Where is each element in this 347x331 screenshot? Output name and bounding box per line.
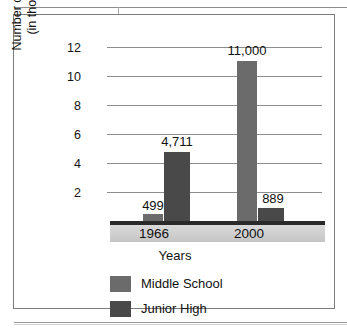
gridline-10 [113, 76, 322, 77]
y-tick-label-4: 4 [59, 158, 81, 171]
page-top-rule [14, 7, 347, 8]
legend-label-middle-school: Middle School [141, 276, 223, 291]
legend-label-junior-high: Junior High [141, 301, 207, 316]
chart-figure-frame: Number of Students (in thousands) 12 10 … [13, 14, 335, 309]
y-tick-label-8: 8 [59, 100, 81, 113]
legend-swatch-junior-high [110, 301, 131, 317]
page-bottom-rule-shadow [14, 324, 347, 325]
y-tick-label-2: 2 [59, 187, 81, 200]
y-axis-title-line2: (in thousands) [25, 0, 40, 75]
x-tick-label-1966: 1966 [124, 227, 184, 241]
legend-item-junior-high: Junior High [110, 298, 223, 319]
bar-1966-middle-school [143, 214, 163, 221]
x-axis-title: Years [14, 248, 336, 263]
y-tick-label-10: 10 [59, 71, 81, 84]
bar-2000-junior-high [258, 208, 284, 221]
gridline-8 [113, 105, 322, 106]
value-label-1966-junior-high: 4,711 [145, 135, 209, 148]
y-axis-title: Number of Students (in thousands) [10, 0, 40, 75]
y-tick-label-6: 6 [59, 129, 81, 142]
x-tick-label-2000: 2000 [219, 227, 279, 241]
y-tick-label-12: 12 [59, 42, 81, 55]
legend-item-middle-school: Middle School [110, 273, 223, 294]
plot-area: 499 4,711 11,000 889 [113, 47, 322, 221]
chart-legend: Middle School Junior High [110, 273, 223, 323]
legend-swatch-middle-school [110, 276, 131, 292]
gridline-4 [113, 163, 322, 164]
value-label-2000-middle-school: 11,000 [215, 44, 279, 57]
y-axis-title-line1: Number of Students [10, 0, 25, 75]
value-label-2000-junior-high: 889 [241, 192, 305, 205]
value-label-1966-middle-school: 499 [121, 199, 185, 212]
page-bottom-rule [14, 322, 347, 323]
